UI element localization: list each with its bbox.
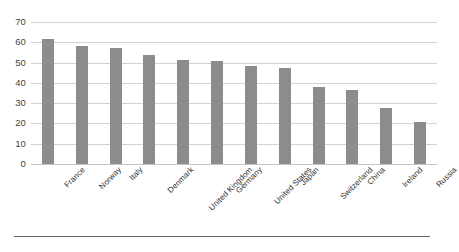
y-tick-label: 10 <box>15 139 26 149</box>
bar[interactable] <box>346 90 358 164</box>
x-tick-label: United Kingdom <box>208 166 254 212</box>
y-tick-label: 20 <box>15 118 26 128</box>
y-tick-label: 40 <box>15 78 26 88</box>
x-tick-label: Ireland <box>402 166 425 189</box>
bar[interactable] <box>279 68 291 164</box>
x-tick-label: Italy <box>128 166 144 182</box>
bar[interactable] <box>245 66 257 164</box>
x-tick-label: Russia <box>435 166 458 189</box>
plot-area <box>31 22 437 164</box>
x-tick-label: Norway <box>98 166 123 191</box>
gridline <box>31 83 437 84</box>
bar[interactable] <box>110 48 122 164</box>
bar[interactable] <box>42 39 54 164</box>
bar[interactable] <box>380 108 392 164</box>
x-tick-label: France <box>63 166 86 189</box>
y-tick-label: 50 <box>15 58 26 68</box>
gridline <box>31 63 437 64</box>
bar[interactable] <box>177 60 189 164</box>
x-tick-label: Denmark <box>167 166 196 195</box>
bar[interactable] <box>143 55 155 164</box>
gridline <box>31 103 437 104</box>
y-tick-label: 0 <box>21 159 26 169</box>
gridline <box>31 144 437 145</box>
bar[interactable] <box>414 122 426 164</box>
gridline <box>31 42 437 43</box>
gridline <box>31 123 437 124</box>
y-tick-label: 30 <box>15 98 26 108</box>
bar[interactable] <box>313 87 325 164</box>
bar[interactable] <box>211 61 223 164</box>
y-tick-label: 60 <box>15 37 26 47</box>
y-axis: 010203040506070 <box>0 0 26 252</box>
x-axis: FranceNorwayItalyDenmarkUnited KingdomGe… <box>31 166 437 236</box>
y-tick-label: 70 <box>15 17 26 27</box>
gridline <box>31 164 437 165</box>
gridline <box>31 22 437 23</box>
bottom-divider <box>14 236 430 237</box>
bar[interactable] <box>76 46 88 164</box>
